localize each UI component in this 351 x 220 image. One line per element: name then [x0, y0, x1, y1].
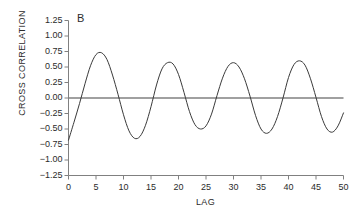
y-tick-label: −0.50: [29, 123, 63, 133]
x-tick-label: 10: [114, 182, 134, 192]
x-tick-label: 50: [334, 182, 351, 192]
x-tick-label: 0: [59, 182, 79, 192]
y-tick-label: 0.00: [29, 92, 63, 102]
y-tick-label: 1.00: [29, 30, 63, 40]
y-tick-label: 0.50: [29, 61, 63, 71]
y-tick-label: −1.25: [29, 170, 63, 180]
x-tick-label: 25: [196, 182, 216, 192]
x-tick-label: 45: [306, 182, 326, 192]
series-path: [69, 52, 344, 140]
y-tick-label: −0.75: [29, 139, 63, 149]
axes: [65, 21, 344, 180]
y-tick-label: 0.25: [29, 77, 63, 87]
y-tick-label: −1.00: [29, 154, 63, 164]
y-tick-label: 0.75: [29, 46, 63, 56]
x-tick-label: 20: [169, 182, 189, 192]
x-tick-label: 15: [141, 182, 161, 192]
x-tick-label: 5: [86, 182, 106, 192]
y-tick-label: 1.25: [29, 15, 63, 25]
x-tick-label: 30: [224, 182, 244, 192]
data-series-line: [69, 52, 344, 140]
x-tick-label: 35: [251, 182, 271, 192]
x-tick-label: 40: [279, 182, 299, 192]
chart-figure: CROSS CORRELATION LAG B −1.25−1.00−0.75−…: [0, 0, 351, 220]
y-tick-label: −0.25: [29, 108, 63, 118]
